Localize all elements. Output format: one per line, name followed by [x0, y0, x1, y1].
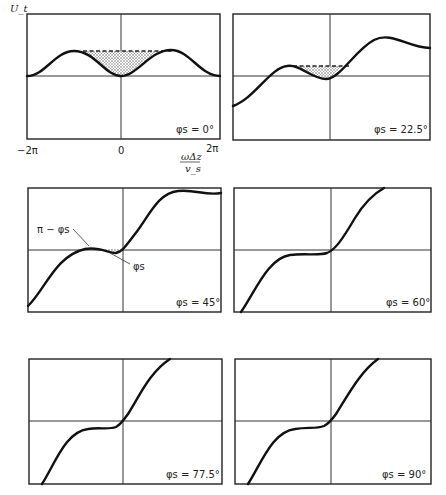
x-tick-label: 2π: [206, 143, 218, 154]
annotation-phi: φs: [133, 261, 145, 272]
panel-phi-77-5: φs = 77.5°: [29, 359, 222, 484]
panel-phi-60: φs = 60°: [234, 188, 431, 312]
panel-phi-22-5: φs = 22.5°: [233, 14, 430, 140]
panel-label: φs = 0°: [176, 124, 214, 135]
panel-label: φs = 77.5°: [166, 469, 220, 480]
x-tick-label: −2π: [17, 145, 38, 156]
x-tick-label: 0: [118, 145, 124, 156]
panel-label: φs = 60°: [386, 297, 430, 308]
potential-well-figure: φs = 0° φs = 22.5° U_t −2π 0 2π ωΔz v_s …: [0, 0, 446, 495]
panel-phi-45: π − φs φs φs = 45°: [28, 188, 221, 312]
annotation-pi-minus-phi: π − φs: [37, 224, 70, 235]
x-axis-label-numerator: ωΔz: [181, 151, 202, 162]
panel-label: φs = 22.5°: [374, 124, 428, 135]
potential-curve: [28, 191, 221, 306]
shaded-well: [83, 51, 159, 76]
y-axis-label: U_t: [10, 3, 28, 15]
panel-phi-0: φs = 0°: [27, 14, 220, 139]
panel-label: φs = 90°: [382, 469, 426, 480]
x-axis-label-denominator: v_s: [185, 163, 201, 175]
panel-label: φs = 45°: [176, 297, 220, 308]
panel-phi-90: φs = 90°: [235, 359, 431, 484]
